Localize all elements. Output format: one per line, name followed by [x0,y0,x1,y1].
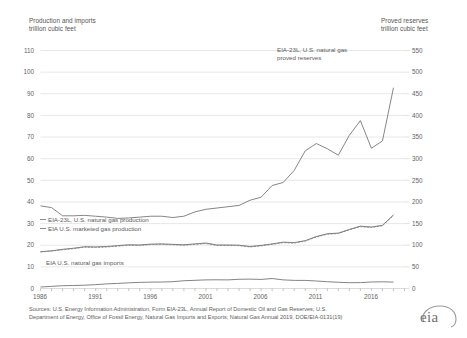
right-tick-50: 50 [412,263,436,270]
right-axis-title: Proved reserves trillion cubic feet [381,17,428,32]
left-tick-10: 10 [14,263,34,270]
x-tick-1996: 1996 [143,293,157,300]
x-tick-2011: 2011 [309,293,323,300]
left-tick-90: 90 [14,90,34,97]
legend-label-production: EIA-23L, U.S. natural gas production [48,216,149,223]
left-tick-80: 80 [14,112,34,119]
right-tick-250: 250 [412,177,436,184]
legend-line-production [40,219,46,220]
left-tick-50: 50 [14,177,34,184]
right-tick-550: 550 [412,47,436,54]
left-tick-60: 60 [14,155,34,162]
left-tick-70: 70 [14,133,34,140]
left-tick-40: 40 [14,198,34,205]
legend-label-marketed: EIA U.S. marketed gas production [48,225,141,232]
eia-logo: eia [418,302,462,332]
legend-item-marketed: EIA U.S. marketed gas production [40,225,141,232]
reserves-annotation: EIA-23L, U.S. natural gas proved reserve… [277,46,347,62]
right-tick-400: 400 [412,112,436,119]
x-tick-1986: 1986 [33,293,47,300]
x-tick-2016: 2016 [364,293,378,300]
left-tick-100: 100 [14,68,34,75]
right-tick-450: 450 [412,90,436,97]
x-tick-1991: 1991 [88,293,102,300]
right-tick-500: 500 [412,68,436,75]
series-line-0 [41,88,394,219]
right-tick-350: 350 [412,133,436,140]
left-tick-110: 110 [14,47,34,54]
series-lines [41,88,394,287]
right-tick-100: 100 [412,241,436,248]
right-tick-200: 200 [412,198,436,205]
plot-area [0,0,467,338]
legend-line-marketed [40,228,46,229]
chart-container: Production and imports trillion cubic fe… [0,0,467,338]
legend-item-imports: EIA U.S. natural gas imports [46,259,124,266]
left-axis-title: Production and imports trillion cubic fe… [29,17,96,32]
eia-logo-text: eia [420,309,438,326]
legend-item-production: EIA-23L, U.S. natural gas production [40,216,149,223]
right-tick-150: 150 [412,220,436,227]
right-tick-300: 300 [412,155,436,162]
x-tick-2006: 2006 [254,293,268,300]
left-tick-0: 0 [14,285,34,292]
series-line-3 [41,279,394,287]
legend-label-imports: EIA U.S. natural gas imports [46,259,124,266]
left-tick-20: 20 [14,241,34,248]
left-tick-30: 30 [14,220,34,227]
source-note: Sources: U.S. Energy Information Adminis… [29,306,409,321]
right-tick-0: 0 [412,285,436,292]
gridlines [41,51,410,289]
x-tick-2001: 2001 [198,293,212,300]
